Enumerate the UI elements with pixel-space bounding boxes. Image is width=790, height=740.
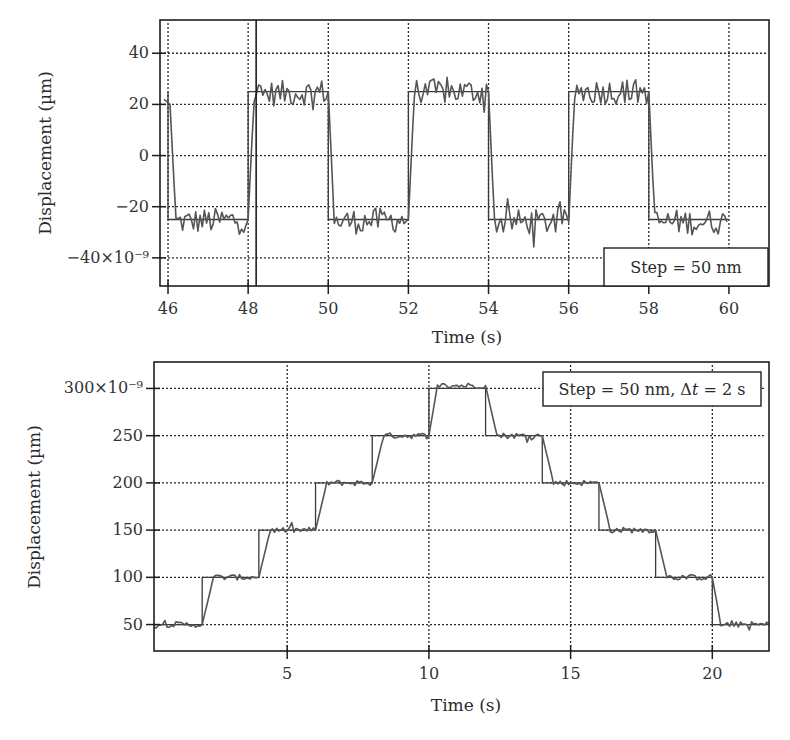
bottom-legend: Step = 50 nm, Δt = 2 s	[543, 372, 761, 406]
x-tick-label: 48	[238, 299, 258, 318]
y-tick-label: −40×10⁻⁹	[67, 248, 150, 267]
y-tick-label: 0	[139, 146, 149, 165]
top-legend-text: Step = 50 nm	[630, 258, 742, 277]
y-tick-label: 150	[112, 520, 143, 539]
top-legend: Step = 50 nm	[604, 248, 768, 286]
y-tick-label: −20	[115, 197, 149, 216]
top-y-axis-title: Displacement (µm)	[35, 71, 55, 235]
y-tick-label: 200	[112, 473, 143, 492]
top-chart: 40200−20−40×10⁻⁹4648505254565860 Step = …	[35, 20, 769, 347]
bottom-x-axis-title: Time (s)	[431, 695, 501, 715]
y-tick-label: 50	[123, 615, 143, 634]
x-tick-label: 46	[158, 299, 178, 318]
command-step-line	[154, 388, 769, 624]
x-tick-label: 10	[419, 664, 439, 683]
y-tick-label: 40	[129, 43, 149, 62]
x-tick-label: 58	[639, 299, 659, 318]
x-tick-label: 60	[719, 299, 739, 318]
bottom-series	[154, 383, 769, 630]
bottom-grid	[154, 365, 766, 651]
x-tick-label: 54	[478, 299, 498, 318]
x-tick-label: 50	[318, 299, 338, 318]
bottom-legend-text: Step = 50 nm, Δt = 2 s	[559, 380, 746, 399]
measured-trace-line	[154, 383, 769, 630]
x-tick-label: 52	[398, 299, 418, 318]
top-series	[164, 77, 729, 247]
y-tick-label: 20	[129, 94, 149, 113]
top-x-axis-title: Time (s)	[432, 327, 502, 347]
y-tick-label: 250	[112, 426, 143, 445]
bottom-chart: 300×10⁻⁹250200150100505101520 Step = 50 …	[24, 362, 769, 715]
x-tick-label: 5	[282, 664, 292, 683]
y-tick-label: 100	[112, 567, 143, 586]
y-tick-label: 300×10⁻⁹	[64, 378, 144, 397]
x-tick-label: 15	[560, 664, 580, 683]
x-tick-label: 20	[702, 664, 722, 683]
figure: 40200−20−40×10⁻⁹4648505254565860 Step = …	[0, 0, 790, 740]
bottom-y-axis-title: Displacement (µm)	[24, 425, 44, 589]
x-tick-label: 56	[558, 299, 578, 318]
